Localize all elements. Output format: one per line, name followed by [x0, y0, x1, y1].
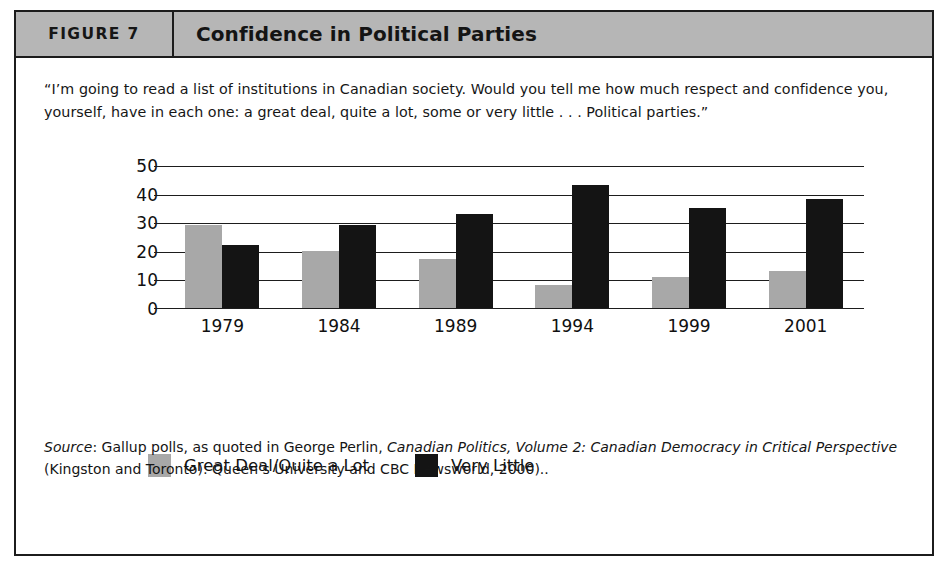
x-axis-tick-1984: 1984 — [281, 316, 398, 336]
bar-group-1994 — [514, 165, 631, 308]
bar-group-1989 — [397, 165, 514, 308]
x-axis-tick-1994: 1994 — [514, 316, 631, 336]
figure-header: FIGURE 7 Confidence in Political Parties — [16, 12, 932, 58]
bar-group-1979 — [164, 165, 281, 308]
bar-chart: 01020304050 197919841989199419992001 Gre… — [16, 154, 932, 424]
bar-groups — [164, 165, 864, 308]
source-italic-title: Canadian Politics, Volume 2: Canadian De… — [387, 439, 897, 455]
x-axis-line — [154, 308, 864, 309]
y-axis-tick-labels: 01020304050 — [114, 166, 158, 309]
source-text-part1: : Gallup polls, as quoted in George Perl… — [92, 439, 387, 455]
bar-1994-series-2 — [572, 185, 609, 308]
bar-1979-series-1 — [185, 225, 222, 308]
survey-question-quote: “I’m going to read a list of institution… — [16, 58, 932, 124]
bar-1999-series-1 — [652, 277, 689, 308]
bar-1984-series-2 — [339, 225, 376, 308]
x-axis-tick-labels: 197919841989199419992001 — [164, 316, 864, 336]
plot-area — [164, 166, 864, 309]
source-label: Source — [44, 439, 92, 455]
figure-number-label: FIGURE 7 — [16, 12, 174, 56]
bar-1979-series-2 — [222, 245, 259, 308]
bar-group-1999 — [631, 165, 748, 308]
bar-1994-series-1 — [535, 285, 572, 308]
source-note: Source: Gallup polls, as quoted in Georg… — [16, 436, 932, 481]
y-axis-tick-0: 0 — [147, 299, 158, 319]
figure-title: Confidence in Political Parties — [174, 12, 932, 56]
bar-group-2001 — [747, 165, 864, 308]
bar-2001-series-1 — [769, 271, 806, 308]
figure-container: FIGURE 7 Confidence in Political Parties… — [14, 10, 934, 556]
figure-body: “I’m going to read a list of institution… — [16, 58, 932, 554]
x-axis-tick-1999: 1999 — [631, 316, 748, 336]
bar-1999-series-2 — [689, 208, 726, 308]
bar-1984-series-1 — [302, 251, 339, 308]
x-axis-tick-1979: 1979 — [164, 316, 281, 336]
source-text-part2: (Kingston and Toronto): Queen’s Universi… — [44, 461, 549, 477]
bar-1989-series-2 — [456, 214, 493, 308]
bar-1989-series-1 — [419, 259, 456, 308]
x-axis-tick-2001: 2001 — [747, 316, 864, 336]
bar-group-1984 — [281, 165, 398, 308]
bar-2001-series-2 — [806, 199, 843, 308]
x-axis-tick-1989: 1989 — [397, 316, 514, 336]
